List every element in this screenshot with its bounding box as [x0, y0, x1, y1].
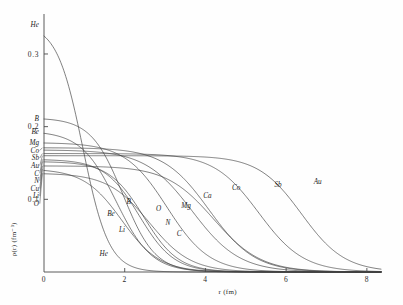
curve-label-be: Be — [107, 210, 115, 218]
density-plot: 024680.10.20.3 HeBBeMgCoSbAuCNCuLiO HeLi… — [0, 0, 403, 305]
density-curve-c — [44, 160, 381, 272]
curve-label-he: He — [99, 250, 109, 258]
curve-label-c: C — [177, 230, 182, 238]
x-tick-label-8: 8 — [365, 275, 369, 284]
curve-label-li: Li — [118, 226, 125, 234]
curve-labels-group: HeLiBeBCNOMgCaCoSbAu — [99, 178, 322, 258]
edge-label-be: Be — [31, 128, 39, 136]
density-curve-he — [44, 36, 381, 272]
curve-label-b: B — [127, 198, 132, 206]
density-curve-be — [44, 133, 381, 272]
density-curve-li — [44, 170, 381, 272]
density-curve-n — [44, 162, 381, 272]
figure-container: 024680.10.20.3 HeBBeMgCoSbAuCNCuLiO HeLi… — [0, 0, 403, 305]
y-axis-title: ρ(r) (fm⁻³) — [10, 222, 18, 256]
edge-label-b: B — [35, 115, 40, 123]
curve-label-co: Co — [232, 184, 241, 192]
x-axis-title: r (fm) — [218, 288, 237, 296]
curve-label-au: Au — [313, 178, 322, 186]
density-curve-ca — [44, 150, 381, 272]
axis-lines — [44, 14, 381, 272]
curve-label-sb: Sb — [274, 181, 282, 189]
x-tick-label-2: 2 — [123, 275, 127, 284]
edge-leader-co — [40, 148, 43, 151]
curve-label-o: O — [156, 205, 162, 213]
y-tick-label-0p3: 0.3 — [28, 50, 39, 59]
x-tick-label-4: 4 — [203, 275, 207, 284]
density-curve-b — [44, 119, 381, 272]
density-curve-au — [44, 156, 381, 269]
curve-label-n: N — [165, 219, 172, 227]
curves-group — [44, 36, 381, 272]
axes-group — [44, 14, 381, 272]
edge-label-o: O — [34, 200, 40, 208]
density-curve-sb — [44, 154, 381, 272]
curve-label-ca: Ca — [203, 192, 212, 200]
density-curve-cu — [44, 166, 381, 272]
x-tick-label-6: 6 — [284, 275, 288, 284]
curve-label-mg: Mg — [180, 202, 191, 210]
x-tick-label-0: 0 — [42, 275, 46, 284]
axis-ticks-group: 024680.10.20.3 — [28, 50, 369, 284]
edge-label-he: He — [30, 21, 40, 29]
